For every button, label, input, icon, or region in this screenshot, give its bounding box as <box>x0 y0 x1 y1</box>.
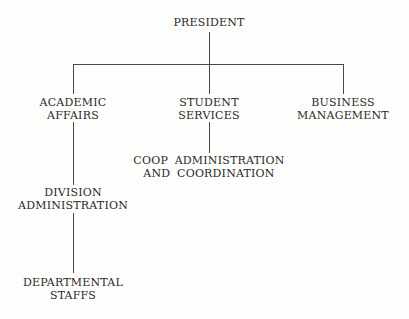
node-president: PRESIDENT <box>159 16 259 29</box>
node-academic-affairs: ACADEMIC AFFAIRS <box>23 96 123 122</box>
node-departmental-staffs: DEPARTMENTAL STAFFS <box>18 276 128 302</box>
node-coop-administration-line-1: COOP ADMINISTRATION <box>132 154 286 167</box>
node-student-services-line-1: STUDENT <box>159 96 259 109</box>
node-division-administration: DIVISION ADMINISTRATION <box>18 186 128 212</box>
node-departmental-staffs-line-1: DEPARTMENTAL <box>18 276 128 289</box>
node-business-management-line-2: MANAGEMENT <box>288 109 398 122</box>
node-student-services-line-2: SERVICES <box>159 109 259 122</box>
node-division-administration-line-2: ADMINISTRATION <box>18 199 128 212</box>
node-business-management: BUSINESS MANAGEMENT <box>288 96 398 122</box>
org-chart: PRESIDENT ACADEMIC AFFAIRS STUDENT SERVI… <box>0 0 409 319</box>
node-student-services: STUDENT SERVICES <box>159 96 259 122</box>
connector-division-to-departmental <box>73 213 74 273</box>
connector-horizontal-bar <box>73 64 344 65</box>
node-division-administration-line-1: DIVISION <box>18 186 128 199</box>
node-business-management-line-1: BUSINESS <box>288 96 398 109</box>
node-president-line-1: PRESIDENT <box>159 16 259 29</box>
node-coop-administration: COOP ADMINISTRATION AND COORDINATION <box>132 154 286 180</box>
connector-business-drop <box>343 64 344 94</box>
connector-president-down <box>209 32 210 94</box>
connector-student-to-coop <box>209 122 210 153</box>
node-academic-affairs-line-1: ACADEMIC <box>23 96 123 109</box>
node-academic-affairs-line-2: AFFAIRS <box>23 109 123 122</box>
node-coop-administration-line-2: AND COORDINATION <box>132 167 286 180</box>
node-departmental-staffs-line-2: STAFFS <box>18 289 128 302</box>
connector-academic-drop <box>73 64 74 94</box>
connector-academic-to-division <box>73 122 74 185</box>
